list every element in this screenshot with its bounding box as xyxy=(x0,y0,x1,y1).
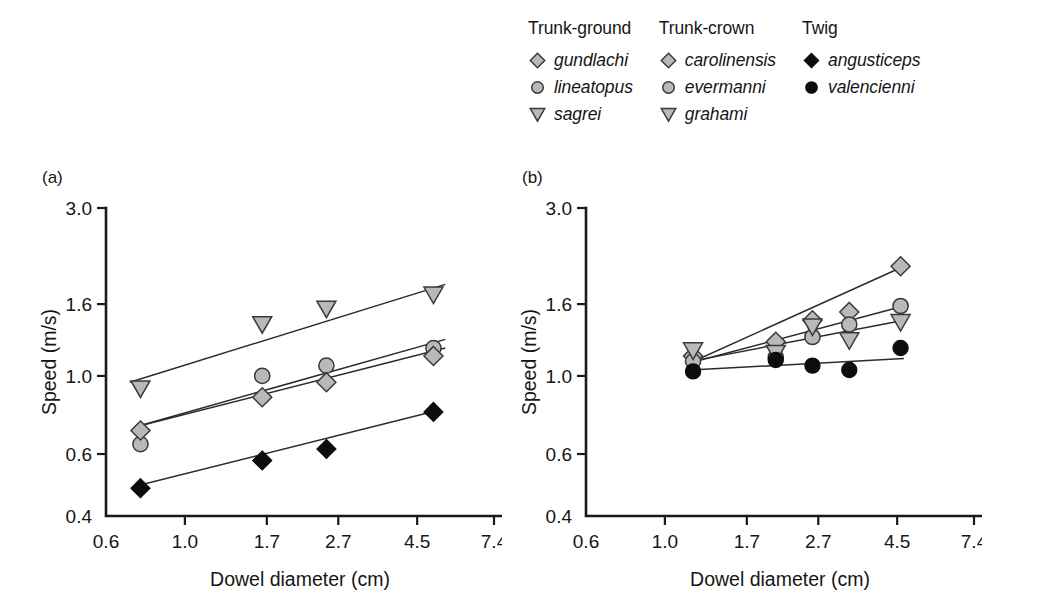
data-point xyxy=(424,402,443,421)
panel-a-tag: (a) xyxy=(42,168,63,188)
regression-line-valencienni xyxy=(690,359,903,370)
y-tick-label: 0.6 xyxy=(66,444,92,465)
circle-open-icon xyxy=(659,78,678,97)
y-axis-title: Speed (m/s) xyxy=(38,309,60,415)
x-axis-title: Dowel diameter (cm) xyxy=(210,568,390,590)
legend-group-trunk-ground: Trunk-groundgundlachilineatopussagrei xyxy=(528,18,633,128)
data-point xyxy=(893,340,908,355)
data-point xyxy=(317,301,336,318)
regression-line-lineatopus xyxy=(134,339,445,427)
x-tick-label: 2.7 xyxy=(325,531,351,552)
diamond-open-icon xyxy=(528,51,547,70)
diamond-open-icon xyxy=(659,51,678,70)
x-tick-label: 1.0 xyxy=(172,531,198,552)
regression-line-gundlachi xyxy=(134,348,445,427)
triangle-open-icon xyxy=(659,105,678,124)
regression-line-grahami xyxy=(690,320,903,361)
series-evermanni xyxy=(685,298,908,369)
y-tick-label: 1.6 xyxy=(66,294,92,315)
data-point xyxy=(891,257,910,276)
data-point xyxy=(842,317,857,332)
data-point xyxy=(424,287,443,304)
legend-entry-label: valencienni xyxy=(828,77,914,98)
y-tick-label: 3.0 xyxy=(546,198,572,219)
x-tick-label: 0.6 xyxy=(93,531,119,552)
legend-entry-grahami[interactable]: grahami xyxy=(659,101,776,128)
y-tick-label: 3.0 xyxy=(66,198,92,219)
data-point xyxy=(253,317,272,334)
legend-entry-gundlachi[interactable]: gundlachi xyxy=(528,47,633,74)
series-carolinensis xyxy=(684,257,911,366)
y-axis-title: Speed (m/s) xyxy=(518,309,540,415)
legend-entry-carolinensis[interactable]: carolinensis xyxy=(659,47,776,74)
data-point xyxy=(685,364,700,379)
data-point xyxy=(840,333,859,350)
legend-entry-label: evermanni xyxy=(685,77,766,98)
circle-filled-icon xyxy=(802,78,821,97)
data-point xyxy=(805,358,820,373)
x-tick-label: 1.7 xyxy=(734,531,760,552)
legend-entry-label: lineatopus xyxy=(554,77,633,98)
x-tick-label: 4.5 xyxy=(404,531,430,552)
regression-line-sagrei xyxy=(130,284,446,382)
data-point xyxy=(131,479,150,498)
panel-a-plot: 0.40.61.01.63.00.61.01.72.74.57.4Dowel d… xyxy=(32,168,502,608)
legend-entry-label: gundlachi xyxy=(554,50,628,71)
x-tick-label: 7.4 xyxy=(481,531,502,552)
figure-root: Trunk-groundgundlachilineatopussagreiTru… xyxy=(0,0,1052,615)
panel-b: (b) 0.40.61.01.63.00.61.01.72.74.57.4Dow… xyxy=(512,168,982,608)
y-tick-label: 1.0 xyxy=(66,366,92,387)
y-tick-label: 1.6 xyxy=(546,294,572,315)
x-tick-label: 0.6 xyxy=(573,531,599,552)
data-point xyxy=(253,451,272,470)
legend-group-heading: Trunk-ground xyxy=(528,18,633,38)
x-tick-label: 2.7 xyxy=(805,531,831,552)
y-tick-label: 1.0 xyxy=(546,366,572,387)
legend-entry-angusticeps[interactable]: angusticeps xyxy=(802,47,920,74)
data-point xyxy=(842,362,857,377)
diamond-filled-icon xyxy=(802,51,821,70)
panel-b-plot: 0.40.61.01.63.00.61.01.72.74.57.4Dowel d… xyxy=(512,168,982,608)
data-point xyxy=(317,440,336,459)
data-point xyxy=(253,388,272,407)
legend-entry-label: sagrei xyxy=(554,104,601,125)
data-point xyxy=(255,368,270,383)
data-point xyxy=(131,381,150,398)
data-point xyxy=(319,358,334,373)
series-lineatopus xyxy=(133,340,441,451)
x-axis-title: Dowel diameter (cm) xyxy=(690,568,870,590)
x-tick-label: 1.0 xyxy=(652,531,678,552)
data-point xyxy=(768,352,783,367)
legend-group-heading: Trunk-crown xyxy=(659,18,776,38)
panel-b-tag: (b) xyxy=(522,168,543,188)
legend-entry-valencienni[interactable]: valencienni xyxy=(802,74,920,101)
y-tick-label: 0.6 xyxy=(546,444,572,465)
series-sagrei xyxy=(131,287,443,397)
legend-group-trunk-crown: Trunk-crowncarolinensisevermannigrahami xyxy=(659,18,776,128)
y-tick-label: 0.4 xyxy=(546,506,573,527)
legend-entry-evermanni[interactable]: evermanni xyxy=(659,74,776,101)
x-tick-label: 1.7 xyxy=(254,531,280,552)
y-tick-label: 0.4 xyxy=(66,506,93,527)
legend-entry-label: angusticeps xyxy=(828,50,920,71)
data-point xyxy=(893,298,908,313)
legend-group-twig: Twigangusticepsvalencienni xyxy=(802,18,920,101)
circle-open-icon xyxy=(528,78,547,97)
panel-a: (a) 0.40.61.01.63.00.61.01.72.74.57.4Dow… xyxy=(32,168,502,608)
figure-legend: Trunk-groundgundlachilineatopussagreiTru… xyxy=(528,18,920,128)
triangle-open-icon xyxy=(528,105,547,124)
legend-group-heading: Twig xyxy=(802,18,920,38)
legend-entry-sagrei[interactable]: sagrei xyxy=(528,101,633,128)
x-tick-label: 4.5 xyxy=(884,531,910,552)
legend-entry-label: carolinensis xyxy=(685,50,776,71)
axis-lines xyxy=(106,208,502,516)
axis-lines xyxy=(586,208,982,516)
regression-line-angusticeps xyxy=(134,410,439,487)
legend-entry-lineatopus[interactable]: lineatopus xyxy=(528,74,633,101)
x-tick-label: 7.4 xyxy=(961,531,982,552)
legend-entry-label: grahami xyxy=(685,104,748,125)
